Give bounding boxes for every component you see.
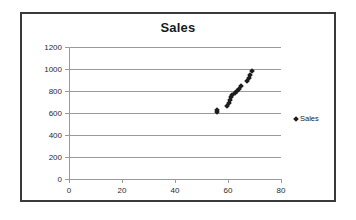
- x-tick-40: [175, 179, 176, 183]
- x-axis-label-0: 0: [67, 186, 71, 195]
- x-tick-80: [281, 179, 282, 183]
- x-axis-label-80: 80: [277, 186, 286, 195]
- y-axis-label-800: 800: [49, 87, 62, 96]
- x-axis-label-60: 60: [224, 186, 233, 195]
- x-axis-label-40: 40: [171, 186, 180, 195]
- y-tick-400: [65, 135, 69, 136]
- chart-frame: Sales 020040060080010001200 020406080 Sa…: [20, 12, 336, 202]
- y-axis-label-1200: 1200: [44, 43, 62, 52]
- gridline-y-600: [69, 113, 281, 114]
- data-point: [238, 83, 244, 89]
- y-tick-600: [65, 113, 69, 114]
- x-tick-60: [228, 179, 229, 183]
- y-tick-200: [65, 157, 69, 158]
- y-tick-1000: [65, 69, 69, 70]
- y-axis-label-1000: 1000: [44, 65, 62, 74]
- diamond-marker-icon: [293, 116, 299, 122]
- x-tick-20: [122, 179, 123, 183]
- plot-area: 020040060080010001200 020406080: [69, 47, 281, 179]
- y-axis-label-600: 600: [49, 109, 62, 118]
- x-tick-0: [69, 179, 70, 183]
- legend-label-sales: Sales: [300, 114, 319, 123]
- gridline-y-400: [69, 135, 281, 136]
- chart-legend: Sales: [294, 114, 319, 123]
- y-tick-800: [65, 91, 69, 92]
- x-axis-label-20: 20: [118, 186, 127, 195]
- chart-title: Sales: [22, 20, 334, 35]
- y-axis-label-400: 400: [49, 131, 62, 140]
- y-axis-label-0: 0: [58, 175, 62, 184]
- y-tick-1200: [65, 47, 69, 48]
- gridline-y-800: [69, 91, 281, 92]
- y-axis-label-200: 200: [49, 153, 62, 162]
- gridline-y-1200: [69, 47, 281, 48]
- gridline-y-200: [69, 157, 281, 158]
